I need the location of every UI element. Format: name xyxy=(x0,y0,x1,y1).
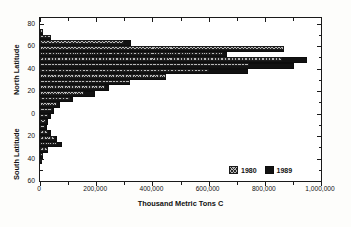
x-tick-minor xyxy=(124,182,125,185)
plot-area xyxy=(39,17,322,182)
bar-segment-1980 xyxy=(40,46,284,49)
y-tick-minor-right xyxy=(319,57,322,58)
y-tick-minor-right xyxy=(319,125,322,126)
y-tick-major-right xyxy=(317,136,321,137)
y-tick-minor xyxy=(40,35,43,36)
legend-item-1989: 1989 xyxy=(265,166,293,174)
legend-label-1980: 1980 xyxy=(241,167,257,174)
bar-segment-1980 xyxy=(40,52,223,55)
y-tick-major xyxy=(40,24,44,25)
bars-layer xyxy=(40,18,321,181)
y-tick-major xyxy=(40,46,44,47)
legend-swatch-1980-icon xyxy=(229,166,238,174)
bar-segment-1980 xyxy=(40,119,46,122)
x-tick-major-top xyxy=(265,18,266,22)
y-tick-minor-right xyxy=(319,170,322,171)
y-tick-minor-right xyxy=(319,80,322,81)
x-tick-minor xyxy=(181,182,182,185)
y-tick-minor xyxy=(40,147,43,148)
x-tick-major-top xyxy=(40,18,41,22)
x-tick-minor-top xyxy=(237,18,238,21)
y-tick-label: 20 xyxy=(21,87,35,94)
y-tick-major-right xyxy=(317,159,321,160)
y-tick-major xyxy=(40,136,44,137)
x-axis-title: Thousand Metric Tons C xyxy=(39,199,322,208)
y-tick-major-right xyxy=(317,24,321,25)
y-tick-minor xyxy=(40,57,43,58)
y-tick-minor-right xyxy=(319,147,322,148)
x-tick-major-top xyxy=(96,18,97,22)
bar-segment-1980 xyxy=(40,142,57,145)
y-tick-minor-right xyxy=(319,102,322,103)
y-tick-major xyxy=(40,159,44,160)
x-tick-label: 0 xyxy=(37,185,41,192)
y-tick-label: 60 xyxy=(21,42,35,49)
bar-segment-1980 xyxy=(40,85,105,88)
bar-segment-1980 xyxy=(40,153,43,156)
bar-segment-1980 xyxy=(40,63,249,66)
y-tick-label: 40 xyxy=(21,154,35,161)
x-tick-minor xyxy=(237,182,238,185)
bar-segment-1980 xyxy=(40,29,43,32)
x-tick-minor-top xyxy=(293,18,294,21)
x-tick-label: 800,000 xyxy=(252,185,276,192)
bar-segment-1980 xyxy=(40,40,124,43)
x-tick-minor xyxy=(68,182,69,185)
y-tick-label: 0 xyxy=(21,109,35,116)
bar-segment-1980 xyxy=(40,91,84,94)
x-tick-label: 600,000 xyxy=(196,185,220,192)
legend-item-1980: 1980 xyxy=(229,166,257,174)
bar-segment-1980 xyxy=(40,80,130,83)
y-tick-major-right xyxy=(317,46,321,47)
y-tick-major-right xyxy=(317,91,321,92)
y-tick-minor xyxy=(40,80,43,81)
bar-segment-1980 xyxy=(40,130,48,133)
bar-segment-1980 xyxy=(40,97,70,100)
y-tick-minor xyxy=(40,170,43,171)
y-axis-title-north: North Latitude xyxy=(12,45,21,96)
bar-segment-1980 xyxy=(40,108,52,111)
chart-figure: Total CO2 Emissions Summed By Latitude 0… xyxy=(0,0,351,227)
x-tick-major-top xyxy=(209,18,210,22)
y-tick-major xyxy=(40,114,44,115)
y-tick-minor-right xyxy=(319,35,322,36)
y-axis-title-south: South Latitude xyxy=(12,128,21,180)
y-tick-label: 60 xyxy=(21,177,35,184)
x-tick-label: 1,000,000 xyxy=(305,185,334,192)
y-tick-label: 40 xyxy=(21,64,35,71)
x-tick-minor-top xyxy=(181,18,182,21)
x-tick-label: 400,000 xyxy=(139,185,163,192)
y-tick-major xyxy=(40,69,44,70)
y-tick-minor xyxy=(40,125,43,126)
y-tick-minor xyxy=(40,102,43,103)
y-tick-major-right xyxy=(317,69,321,70)
y-tick-label: 20 xyxy=(21,132,35,139)
y-tick-major xyxy=(40,181,44,182)
x-tick-major-top xyxy=(152,18,153,22)
legend-swatch-1989-icon xyxy=(265,166,274,174)
x-tick-minor-top xyxy=(68,18,69,21)
chart-legend: 1980 1989 xyxy=(229,166,292,174)
x-tick-minor-top xyxy=(124,18,125,21)
y-tick-major xyxy=(40,91,44,92)
bar-segment-1980 xyxy=(40,74,166,77)
y-tick-label: 80 xyxy=(21,19,35,26)
bar-segment-1980 xyxy=(40,102,57,105)
bar-segment-1980 xyxy=(40,57,282,60)
bar-segment-1980 xyxy=(40,69,209,72)
y-tick-major-right xyxy=(317,181,321,182)
x-tick-minor xyxy=(293,182,294,185)
legend-label-1989: 1989 xyxy=(277,167,293,174)
x-tick-label: 200,000 xyxy=(83,185,107,192)
x-tick-major-top xyxy=(321,18,322,22)
y-tick-major-right xyxy=(317,114,321,115)
